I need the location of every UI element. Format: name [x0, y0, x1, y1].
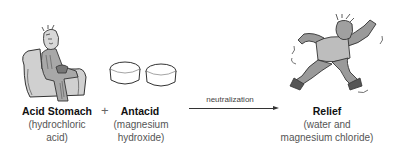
relief-detail-2: magnesium chloride)	[281, 132, 374, 143]
arrow-line	[189, 108, 274, 109]
antacid-label: Antacid	[121, 105, 160, 117]
relief-detail-1: (water and	[303, 119, 350, 130]
seated-man-illustration	[18, 25, 90, 103]
plus-sign: +	[101, 103, 109, 118]
antacid-detail-1: (magnesium	[113, 119, 168, 130]
reaction-label: neutralization	[206, 95, 254, 104]
jumping-man-illustration	[288, 14, 388, 96]
arrow-right-icon	[273, 106, 279, 110]
antacid-detail-2: hydroxide)	[118, 132, 165, 143]
acid-stomach-label: Acid Stomach	[22, 105, 92, 117]
antacid-tablets-illustration	[108, 60, 182, 92]
acid-stomach-detail-2: acid)	[46, 132, 68, 143]
relief-label: Relief	[313, 105, 342, 117]
acid-stomach-detail-1: (hydrochloric	[28, 119, 85, 130]
